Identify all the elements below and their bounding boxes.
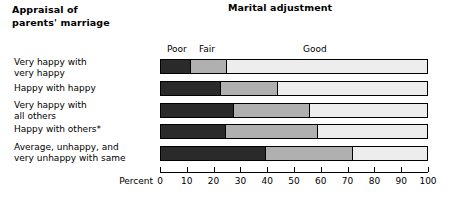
axis-tick-label: 50 <box>281 176 307 187</box>
chart-title: Marital adjustment <box>228 2 418 15</box>
left-column-heading: Appraisal of parents' marriage <box>12 4 152 29</box>
axis-tick-label: 20 <box>201 176 227 187</box>
row-label: Very happy with all others <box>14 100 159 121</box>
axis-tick-label: 10 <box>174 176 200 187</box>
axis-tick <box>401 167 402 172</box>
axis-tick-label: 30 <box>227 176 253 187</box>
stacked-bar <box>160 103 428 118</box>
axis-tick <box>240 167 241 172</box>
bar-segment-good <box>353 147 427 160</box>
row-label: Happy with others* <box>14 124 159 135</box>
segment-legend-poor: Poor <box>167 44 187 55</box>
bar-segment-good <box>278 82 427 95</box>
axis-tick-label: 90 <box>388 176 414 187</box>
row-label: Very happy with very happy <box>14 57 159 78</box>
bar-segment-fair <box>265 147 353 160</box>
bar-segment-poor <box>161 104 233 117</box>
bar-segment-poor <box>161 60 190 73</box>
axis-tick <box>348 167 349 172</box>
axis-tick <box>267 167 268 172</box>
stacked-bar <box>160 59 428 74</box>
axis-tick-label: 40 <box>254 176 280 187</box>
axis-tick <box>428 167 429 172</box>
row-label: Average, unhappy, and very unhappy with … <box>14 142 159 163</box>
axis-tick <box>294 167 295 172</box>
axis-tick-label: 60 <box>308 176 334 187</box>
bar-segment-poor <box>161 82 220 95</box>
bar-segment-fair <box>233 104 310 117</box>
stacked-bar <box>160 146 428 161</box>
axis-tick <box>374 167 375 172</box>
bar-segment-good <box>310 104 427 117</box>
axis-title: Percent <box>108 176 153 187</box>
bar-segment-poor <box>161 147 265 160</box>
row-label: Happy with happy <box>14 83 159 94</box>
bar-segment-fair <box>225 125 318 138</box>
axis-tick <box>321 167 322 172</box>
axis-tick-label: 80 <box>361 176 387 187</box>
axis-tick <box>214 167 215 172</box>
axis-tick <box>160 167 161 172</box>
bar-segment-poor <box>161 125 225 138</box>
stacked-bar <box>160 124 428 139</box>
stacked-bar <box>160 81 428 96</box>
segment-legend-good: Good <box>303 44 327 55</box>
chart-figure: Appraisal of parents' marriage Marital a… <box>0 0 450 198</box>
segment-legend-fair: Fair <box>199 44 215 55</box>
bar-segment-fair <box>220 82 279 95</box>
bar-segment-good <box>318 125 427 138</box>
bar-segment-good <box>227 60 427 73</box>
axis-line <box>160 172 428 173</box>
axis-tick-label: 100 <box>415 176 441 187</box>
axis-tick-label: 70 <box>335 176 361 187</box>
bar-segment-fair <box>190 60 227 73</box>
axis-tick <box>187 167 188 172</box>
